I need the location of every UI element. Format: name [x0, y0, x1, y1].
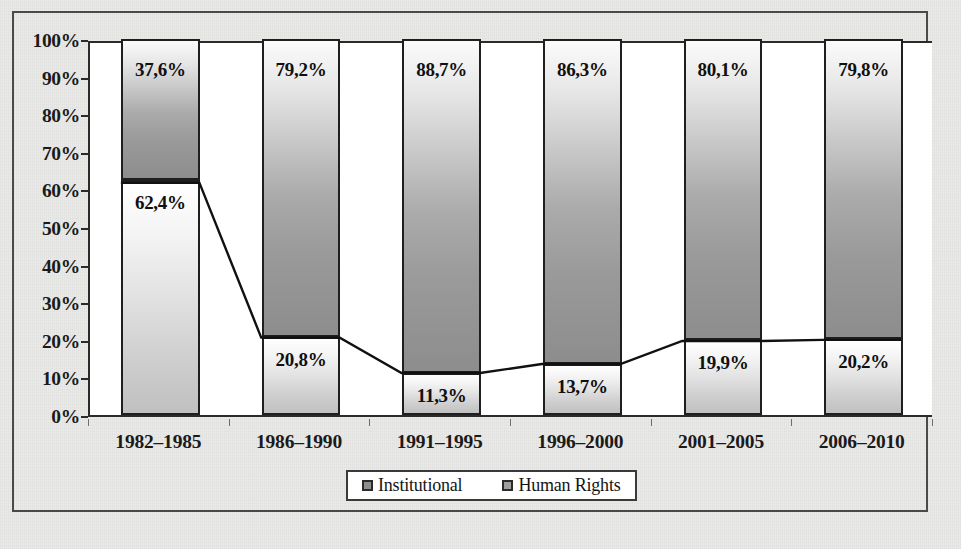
- y-tick-label: 50%: [42, 218, 80, 240]
- bar-segment-label: 79,8%: [838, 59, 889, 81]
- y-tick-mark: [81, 40, 88, 42]
- bar-segment-label: 37,6%: [135, 59, 186, 81]
- bar-segment-human-rights[interactable]: 62,4%: [121, 180, 200, 415]
- x-tick-mark: [229, 419, 230, 426]
- stacked-bar[interactable]: 13,7%86,3%: [543, 43, 622, 415]
- bar-group[interactable]: 19,9%80,1%: [684, 43, 763, 415]
- y-tick-mark: [81, 115, 88, 117]
- x-tick-label: 1996–2000: [537, 431, 623, 453]
- legend-item[interactable]: Human Rights: [502, 475, 620, 496]
- y-axis: 100%90%80%70%60%50%40%30%20%10%0%: [12, 41, 88, 417]
- y-tick-label: 80%: [42, 105, 80, 127]
- plot-inner: 62,4%37,6%20,8%79,2%11,3%88,7%13,7%86,3%…: [90, 43, 932, 415]
- bar-segment-institutional[interactable]: 79,2%: [262, 39, 341, 337]
- stacked-bar[interactable]: 19,9%80,1%: [684, 43, 763, 415]
- bar-group[interactable]: 11,3%88,7%: [402, 43, 481, 415]
- y-tick-label: 10%: [42, 368, 80, 390]
- bar-segment-institutional[interactable]: 37,6%: [121, 39, 200, 180]
- bar-segment-label: 20,8%: [276, 349, 327, 371]
- plot-area: 62,4%37,6%20,8%79,2%11,3%88,7%13,7%86,3%…: [88, 41, 932, 417]
- bar-segment-institutional[interactable]: 88,7%: [402, 39, 481, 373]
- bar-segment-label: 88,7%: [416, 59, 467, 81]
- x-tick-label: 1986–1990: [256, 431, 342, 453]
- bar-group[interactable]: 13,7%86,3%: [543, 43, 622, 415]
- bar-segment-human-rights[interactable]: 19,9%: [684, 340, 763, 415]
- x-tick-label: 1991–1995: [397, 431, 483, 453]
- bar-segment-label: 62,4%: [135, 192, 186, 214]
- legend-item[interactable]: Institutional: [362, 475, 462, 496]
- stacked-bar[interactable]: 62,4%37,6%: [121, 43, 200, 415]
- y-tick-mark: [81, 266, 88, 268]
- x-tick-mark: [88, 419, 89, 426]
- x-tick-label: 2006–2010: [819, 431, 905, 453]
- stacked-bar[interactable]: 20,2%79,8%: [824, 43, 903, 415]
- y-tick-label: 40%: [42, 256, 80, 278]
- x-tick-mark: [791, 419, 792, 426]
- bar-segment-human-rights[interactable]: 11,3%: [402, 373, 481, 415]
- bar-segment-label: 11,3%: [417, 385, 467, 407]
- y-tick-label: 20%: [42, 331, 80, 353]
- bar-segment-human-rights[interactable]: 20,8%: [262, 337, 341, 415]
- bar-segment-institutional[interactable]: 86,3%: [543, 39, 622, 363]
- x-tick-mark: [369, 419, 370, 426]
- stacked-bar[interactable]: 20,8%79,2%: [262, 43, 341, 415]
- bar-segment-institutional[interactable]: 79,8%: [824, 39, 903, 339]
- bar-group[interactable]: 62,4%37,6%: [121, 43, 200, 415]
- y-tick-mark: [81, 416, 88, 418]
- bar-group[interactable]: 20,2%79,8%: [824, 43, 903, 415]
- bar-segment-human-rights[interactable]: 20,2%: [824, 339, 903, 415]
- y-tick-label: 0%: [51, 406, 80, 428]
- y-tick-mark: [81, 78, 88, 80]
- y-tick-label: 100%: [32, 30, 80, 52]
- y-tick-mark: [81, 153, 88, 155]
- x-axis: 1982–19851986–19901991–19951996–20002001…: [88, 419, 932, 459]
- legend-label: Institutional: [378, 475, 462, 496]
- y-tick-label: 60%: [42, 180, 80, 202]
- y-tick-label: 90%: [42, 68, 80, 90]
- legend-swatch-icon: [502, 480, 513, 491]
- y-tick-mark: [81, 341, 88, 343]
- bar-segment-label: 86,3%: [557, 59, 608, 81]
- x-tick-label: 1982–1985: [115, 431, 201, 453]
- legend-swatch-icon: [362, 480, 373, 491]
- bar-group[interactable]: 20,8%79,2%: [262, 43, 341, 415]
- bar-segment-label: 13,7%: [557, 376, 608, 398]
- x-tick-label: 2001–2005: [678, 431, 764, 453]
- y-tick-label: 70%: [42, 143, 80, 165]
- chart-legend: InstitutionalHuman Rights: [346, 470, 637, 501]
- chart-screenshot: 100%90%80%70%60%50%40%30%20%10%0% 62,4%3…: [0, 0, 961, 549]
- y-tick-mark: [81, 228, 88, 230]
- legend-label: Human Rights: [518, 475, 620, 496]
- bar-segment-label: 19,9%: [698, 352, 749, 374]
- y-tick-mark: [81, 303, 88, 305]
- bar-segment-institutional[interactable]: 80,1%: [684, 39, 763, 340]
- x-tick-mark: [932, 419, 933, 426]
- y-tick-mark: [81, 190, 88, 192]
- y-tick-label: 30%: [42, 293, 80, 315]
- bar-segment-human-rights[interactable]: 13,7%: [543, 364, 622, 416]
- bar-segment-label: 20,2%: [838, 351, 889, 373]
- x-tick-mark: [651, 419, 652, 426]
- y-tick-mark: [81, 378, 88, 380]
- stacked-bar[interactable]: 11,3%88,7%: [402, 43, 481, 415]
- bar-segment-label: 79,2%: [276, 59, 327, 81]
- x-tick-mark: [510, 419, 511, 426]
- bar-segment-label: 80,1%: [698, 59, 749, 81]
